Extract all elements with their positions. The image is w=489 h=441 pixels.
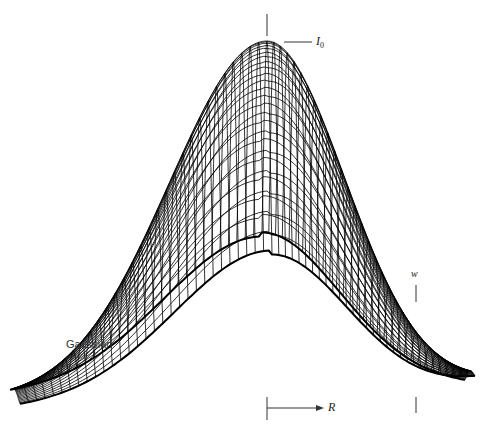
radius-arrow-head [316,405,324,411]
width-label: w [411,268,418,279]
mesh-profile-line [11,196,466,390]
gaussian-label: Gaussian [66,338,112,350]
gaussian-wireframe [0,0,489,441]
peak-intensity-label: I0 [316,34,324,50]
radius-label: R [328,400,335,415]
